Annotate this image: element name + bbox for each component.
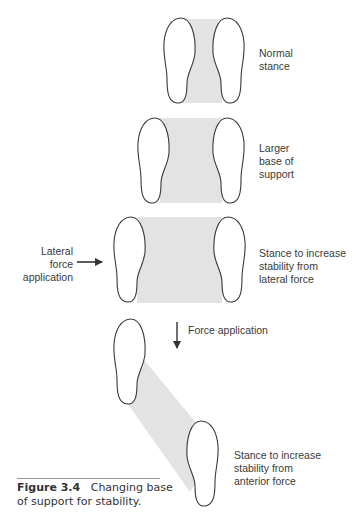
stance-larger-base: [138, 118, 244, 203]
label-lateral-stance: Stance to increase stability from latera…: [259, 247, 346, 286]
right-foot-outline: [187, 421, 218, 506]
base-of-support-area: [160, 118, 222, 203]
label-lateral-force: Lateral force application: [10, 245, 73, 284]
stance-normal: [164, 18, 244, 103]
figure-number: Figure 3.4: [17, 481, 80, 494]
base-of-support-area: [137, 217, 222, 303]
stance-lateral-force: [77, 217, 245, 303]
label-anterior-stance: Stance to increase stability from anteri…: [234, 449, 321, 488]
label-normal-stance: Normal stance: [259, 47, 293, 73]
figure-caption: Figure 3.4 Changing base of support for …: [17, 481, 177, 508]
caption-rule: [17, 478, 160, 479]
label-force-application: Force application: [188, 324, 268, 337]
label-larger-base: Larger base of support: [259, 142, 294, 181]
